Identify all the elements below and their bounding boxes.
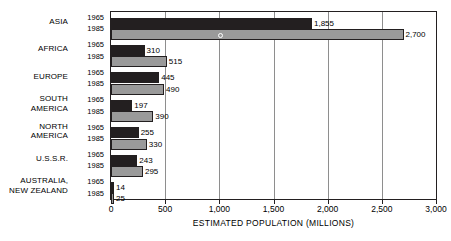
category-label-row: AFRICA19651985 [0, 38, 110, 62]
bar-value-label: 490 [164, 84, 179, 95]
category-name: AUSTRALIA,NEW ZEALAND [0, 176, 68, 195]
year-labels: 19651985 [87, 39, 104, 62]
category-label-row: AUSTRALIA,NEW ZEALAND19651985 [0, 175, 110, 199]
bar-value-label: 390 [153, 111, 168, 122]
category-name: SOUTHAMERICA [0, 94, 68, 113]
category-name: U.S.S.R. [0, 154, 68, 164]
bar-1965 [111, 72, 159, 83]
bar-value-label: 515 [167, 56, 182, 67]
year-labels: 19651985 [87, 12, 104, 35]
category-name: EUROPE [0, 72, 68, 82]
bar-value-label: 255 [139, 127, 154, 138]
year-labels: 19651985 [87, 67, 104, 90]
x-axis-tick-labels: 05001,0001,5002,0002,5003,000 [110, 204, 437, 216]
category-name: ASIA [0, 17, 68, 27]
bar-group: 255330 [111, 127, 436, 151]
bar-1965 [111, 127, 139, 138]
bar-1965 [111, 100, 132, 111]
axis-tick-label: 1,500 [263, 204, 284, 215]
axis-tick-label: 0 [109, 204, 114, 215]
bar-value-label: 197 [132, 100, 147, 111]
bar-1985 [111, 111, 153, 122]
year-labels: 19651985 [87, 149, 104, 172]
bar-1965 [111, 155, 137, 166]
bar-value-label: 14 [114, 182, 125, 193]
year-labels: 19651985 [87, 94, 104, 117]
axis-tick-label: 2,000 [317, 204, 338, 215]
bar-1965 [111, 18, 312, 29]
bar-group: 1,8552,700 [111, 18, 436, 42]
category-name: AFRICA [0, 44, 68, 54]
bar-value-label: 243 [137, 155, 152, 166]
population-bar-chart: ASIA19651985AFRICA19651985EUROPE19651985… [0, 0, 451, 241]
axis-tick-label: 500 [158, 204, 172, 215]
axis-tick-label: 2,500 [371, 204, 392, 215]
year-labels: 19651985 [87, 176, 104, 199]
data-point-marker [218, 33, 224, 39]
bar-1985 [111, 56, 167, 67]
bar-group: 197390 [111, 100, 436, 124]
bar-1965 [111, 45, 145, 56]
year-labels: 19651985 [87, 122, 104, 145]
plot-area: 1,8552,700310515445490197390255330243295… [110, 11, 437, 200]
bar-value-label: 310 [145, 45, 160, 56]
category-label-column: ASIA19651985AFRICA19651985EUROPE19651985… [0, 11, 110, 203]
category-name: NORTHAMERICA [0, 122, 68, 141]
category-label-row: ASIA19651985 [0, 11, 110, 35]
bar-value-label: 2,700 [404, 29, 426, 40]
category-label-row: U.S.S.R.19651985 [0, 148, 110, 172]
bar-value-label: 445 [159, 72, 174, 83]
bar-value-label: 1,855 [312, 18, 334, 29]
bar-group: 310515 [111, 45, 436, 69]
bar-1985 [111, 84, 164, 95]
category-label-row: SOUTHAMERICA19651985 [0, 93, 110, 117]
category-label-row: EUROPE19651985 [0, 66, 110, 90]
x-axis-title: ESTIMATED POPULATION (MILLIONS) [110, 218, 437, 228]
bar-1985 [111, 166, 143, 177]
bar-group: 243295 [111, 155, 436, 179]
bar-group: 445490 [111, 72, 436, 96]
axis-tick-label: 3,000 [425, 204, 446, 215]
category-label-row: NORTHAMERICA19651985 [0, 121, 110, 145]
axis-tick-label: 1,000 [209, 204, 230, 215]
bar-value-label: 330 [147, 139, 162, 150]
bars-layer: 1,8552,700310515445490197390255330243295… [111, 12, 436, 199]
bar-value-label: 295 [143, 166, 158, 177]
bar-1985 [111, 29, 404, 40]
bar-1985 [111, 139, 147, 150]
